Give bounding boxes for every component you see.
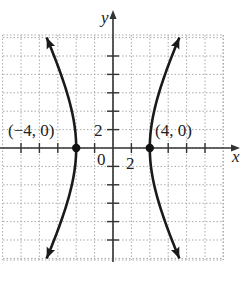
hyperbola-plot: y x 0 2 2 (−4, 0) (4, 0) — [0, 0, 241, 281]
y-axis-arrow-icon — [110, 10, 117, 19]
vertex-label-right: (4, 0) — [155, 121, 192, 140]
origin-label: 0 — [97, 150, 106, 169]
x-tick-label-2: 2 — [126, 154, 135, 173]
y-tick-label-2: 2 — [94, 121, 103, 140]
vertex-label-left: (−4, 0) — [8, 121, 54, 140]
vertex-point — [72, 144, 80, 152]
vertex-point — [146, 144, 154, 152]
y-axis-label: y — [99, 8, 109, 27]
x-axis-label: x — [231, 147, 240, 166]
